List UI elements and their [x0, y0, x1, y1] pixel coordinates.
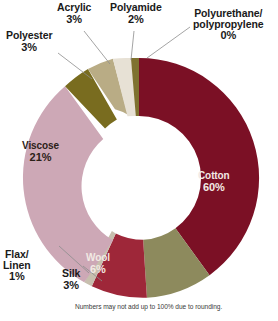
label-viscose-name: Viscose [22, 140, 59, 151]
chart-footnote: Numbers may not add up to 100% due to ro… [75, 303, 222, 310]
label-silk-name: Silk [62, 267, 80, 279]
label-polyamide-name: Polyamide [110, 1, 162, 13]
leader-polyester [58, 53, 92, 79]
label-cotton-pct: 60% [198, 182, 230, 194]
label-viscose: Viscose 21% [22, 140, 59, 163]
leader-polyurethane [147, 27, 190, 58]
label-flax-pct: 1% [3, 271, 31, 282]
label-wool-name: Wool [86, 252, 110, 263]
label-polyamide-pct: 2% [110, 14, 162, 26]
label-cotton-name: Cotton [198, 170, 230, 181]
label-acrylic-pct: 3% [57, 14, 91, 26]
leader-polyamide [131, 31, 134, 60]
label-acrylic-name: Acrylic [57, 1, 91, 13]
label-polyurethane-pct: 0% [193, 30, 263, 41]
label-wool: Wool 6% [86, 252, 110, 275]
label-silk-pct: 3% [62, 280, 80, 292]
label-wool-pct: 6% [86, 264, 110, 276]
label-polyester-name: Polyester [6, 29, 52, 41]
label-polyamide: Polyamide 2% [110, 2, 162, 25]
label-polyester-pct: 3% [6, 42, 52, 54]
leader-acrylic [84, 31, 110, 64]
label-silk: Silk 3% [62, 268, 80, 291]
label-flax-linen: Flax/ Linen 1% [3, 249, 31, 282]
donut-chart: Polyester 3% Acrylic 3% Polyamide 2% Pol… [0, 0, 278, 321]
label-polyester: Polyester 3% [6, 30, 52, 53]
label-cotton: Cotton 60% [198, 170, 230, 193]
label-polyurethane: Polyurethane/ polypropylene 0% [193, 8, 263, 41]
label-acrylic: Acrylic 3% [57, 2, 91, 25]
label-viscose-pct: 21% [22, 152, 59, 164]
